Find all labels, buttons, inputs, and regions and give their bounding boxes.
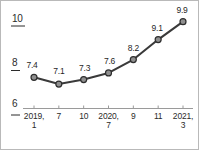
x-tick-label: 2019,1 (24, 112, 44, 130)
x-tick-label-line2: 7 (98, 121, 118, 130)
x-tick-label-line1: 9 (131, 111, 136, 121)
data-point-marker (180, 19, 186, 25)
x-tick-label-line1: 7 (57, 111, 62, 121)
data-point-label: 9.1 (152, 24, 163, 33)
x-tick-label: 2021,3 (173, 112, 193, 130)
chart-figure: 10 8 6 2019,17102020,79112021,3 7.47.17.… (0, 0, 199, 150)
y-tick-label-10: 10 (12, 14, 23, 24)
data-point-label: 7.6 (104, 57, 115, 66)
data-point-marker (106, 70, 112, 76)
x-tick-label: 10 (79, 112, 88, 121)
x-tick-label: 2020,7 (98, 112, 118, 130)
data-point-label: 7.1 (53, 67, 64, 76)
data-point-marker (31, 74, 37, 80)
x-tick-label-line1: 11 (154, 111, 162, 121)
data-point-label: 9.9 (176, 6, 187, 15)
data-point-marker (81, 77, 87, 83)
y-tick-label-8: 8 (12, 58, 17, 68)
data-point-label: 8.2 (128, 44, 139, 53)
x-tick-label-line2: 3 (173, 121, 193, 130)
x-tick-label: 9 (131, 112, 136, 121)
y-tick-label-6: 6 (12, 99, 17, 109)
x-tick-label-line2: 1 (24, 121, 44, 130)
data-point-marker (56, 81, 62, 87)
x-tick-label: 11 (154, 112, 162, 121)
x-tick-label-line1: 10 (79, 111, 88, 121)
x-tick-label: 7 (57, 112, 62, 121)
data-point-marker (130, 57, 136, 63)
data-point-label: 7.4 (26, 61, 37, 70)
plot-area: 10 8 6 2019,17102020,79112021,3 7.47.17.… (1, 1, 199, 150)
data-point-marker (155, 37, 161, 43)
data-point-label: 7.3 (79, 64, 90, 73)
